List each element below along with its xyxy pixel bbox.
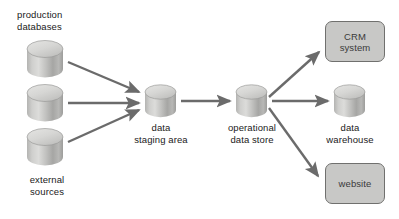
label-external-sources: external sources <box>12 174 82 197</box>
label-operational-data-store: operational data store <box>212 122 292 145</box>
cylinder-data-staging-area <box>145 85 176 117</box>
box-crm-system-label: CRM system <box>326 30 384 53</box>
box-crm-system[interactable]: CRM system <box>325 21 385 62</box>
arrow-db1-to-staging <box>68 62 139 92</box>
cylinder-operational-data-store <box>236 85 267 117</box>
box-website[interactable]: website <box>325 163 385 204</box>
diagram-canvas: CRM system website production databases … <box>0 0 399 219</box>
arrow-ods-to-crm <box>269 52 319 97</box>
label-production-databases: production databases <box>17 9 107 32</box>
label-data-warehouse: data warehouse <box>312 122 388 145</box>
box-website-label: website <box>326 178 384 190</box>
cylinder-production-database-2 <box>27 85 63 122</box>
cylinder-data-warehouse <box>334 85 365 117</box>
cylinder-external-sources <box>27 129 63 166</box>
cylinder-production-database-1 <box>27 41 63 78</box>
label-data-staging-area: data staging area <box>126 122 196 145</box>
